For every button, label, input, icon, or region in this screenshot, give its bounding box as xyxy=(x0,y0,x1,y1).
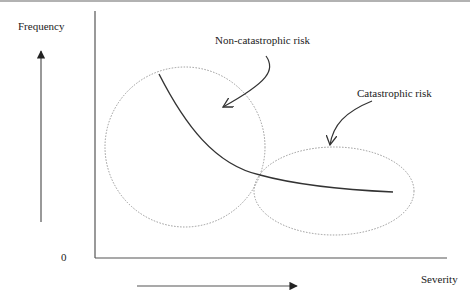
non-catastrophic-pointer-arrow-icon xyxy=(223,56,270,107)
risk-frequency-severity-diagram: Frequency 0 Severity Non-catastrophic ri… xyxy=(0,0,470,307)
catastrophic-pointer-arrow-icon xyxy=(330,101,372,145)
non-catastrophic-region xyxy=(105,67,265,227)
x-axis-label: Severity xyxy=(421,273,458,285)
origin-label: 0 xyxy=(61,251,67,263)
y-axis-label: Frequency xyxy=(18,20,65,32)
catastrophic-region xyxy=(254,147,414,235)
non-catastrophic-risk-label: Non-catastrophic risk xyxy=(215,34,310,46)
catastrophic-risk-label: Catastrophic risk xyxy=(357,87,432,99)
